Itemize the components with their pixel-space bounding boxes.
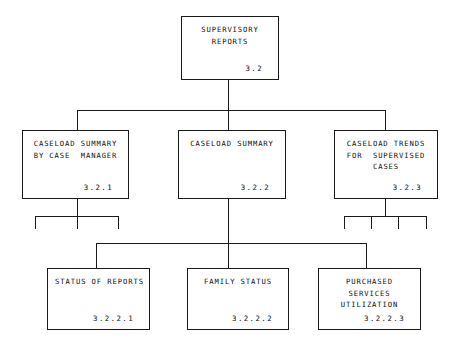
node-purchased-services-utilization[interactable]: PURCHASED SERVICES UTILIZATION 3.2.2.3: [318, 268, 421, 330]
node-title-line: SUPERVISORY: [189, 24, 271, 36]
node-title: CASELOAD SUMMARY BY CASE MANAGER: [30, 138, 121, 161]
child-stub-3-2-1-c: [118, 216, 119, 229]
connector-stub-bus-3-2-3: [344, 216, 426, 217]
node-title: CASELOAD SUMMARY: [186, 138, 278, 150]
connector-root-stem: [228, 80, 229, 110]
connector-drop-to-3-2-1: [77, 110, 78, 130]
diagram-canvas: SUPERVISORY REPORTS 3.2 CASELOAD SUMMARY…: [0, 0, 462, 358]
node-title: SUPERVISORY REPORTS: [189, 24, 271, 47]
node-title-line: BY CASE MANAGER: [30, 150, 121, 162]
node-id: 3.2.1: [30, 183, 121, 193]
node-title: FAMILY STATUS: [195, 276, 281, 288]
connector-stem-3-2-2: [228, 199, 229, 243]
connector-drop-to-3-2-2-3: [366, 243, 367, 268]
child-stub-3-2-3-b: [371, 216, 372, 229]
node-id: 3.2.2.1: [55, 314, 142, 324]
child-stub-3-2-1-a: [35, 216, 36, 229]
node-title-line: FAMILY STATUS: [195, 276, 281, 288]
child-stub-3-2-3-d: [426, 216, 427, 229]
node-id: 3.2.2.2: [195, 314, 281, 324]
node-supervisory-reports[interactable]: SUPERVISORY REPORTS 3.2: [181, 16, 279, 80]
node-title-line: REPORTS: [189, 36, 271, 48]
node-title-line: CASELOAD SUMMARY: [186, 138, 278, 150]
node-caseload-summary[interactable]: CASELOAD SUMMARY 3.2.2: [178, 130, 286, 199]
connector-level2-bus: [77, 110, 386, 111]
node-id: 3.2: [189, 64, 271, 74]
node-title-line: FOR SUPERVISED: [342, 150, 430, 162]
child-stub-3-2-1-b: [77, 216, 78, 229]
child-stub-3-2-3-c: [398, 216, 399, 229]
connector-drop-to-3-2-2-2: [228, 243, 229, 268]
connector-drop-to-3-2-3: [385, 110, 386, 130]
connector-stem-3-2-3: [385, 199, 386, 216]
node-title-line: STATUS OF REPORTS: [55, 276, 142, 288]
connector-drop-to-3-2-2-1: [96, 243, 97, 268]
node-title: STATUS OF REPORTS: [55, 276, 142, 288]
node-family-status[interactable]: FAMILY STATUS 3.2.2.2: [187, 268, 289, 330]
child-stub-3-2-3-a: [344, 216, 345, 229]
node-title: CASELOAD TRENDS FOR SUPERVISED CASES: [342, 138, 430, 173]
node-title-line: CASELOAD TRENDS: [342, 138, 430, 150]
node-id: 3.2.2: [186, 183, 278, 193]
node-id: 3.2.2.3: [326, 314, 413, 324]
connector-level3-bus: [96, 243, 367, 244]
node-title-line: CASELOAD SUMMARY: [30, 138, 121, 150]
connector-stem-3-2-1: [77, 199, 78, 216]
node-title-line: PURCHASED: [326, 276, 413, 288]
node-title-line: UTILIZATION: [326, 299, 413, 311]
node-id: 3.2.3: [342, 183, 430, 193]
node-title-line: SERVICES: [326, 288, 413, 300]
node-caseload-trends-for-supervised-cases[interactable]: CASELOAD TRENDS FOR SUPERVISED CASES 3.2…: [334, 130, 438, 199]
node-status-of-reports[interactable]: STATUS OF REPORTS 3.2.2.1: [47, 268, 150, 330]
node-caseload-summary-by-case-manager[interactable]: CASELOAD SUMMARY BY CASE MANAGER 3.2.1: [22, 130, 129, 199]
node-title-line: CASES: [342, 161, 430, 173]
connector-drop-to-3-2-2: [228, 110, 229, 130]
node-title: PURCHASED SERVICES UTILIZATION: [326, 276, 413, 311]
